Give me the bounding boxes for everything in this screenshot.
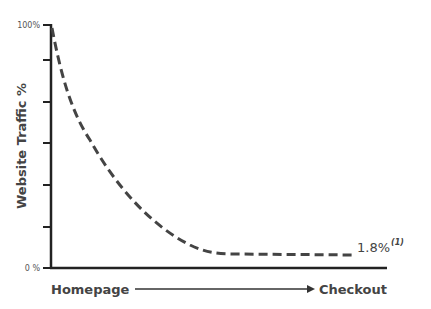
y-axis-label: Website Traffic % [14,83,29,209]
end-value-label: 1.8% [357,240,390,255]
end-footnote: (1) [391,238,404,247]
traffic-curve [52,28,356,255]
y-tick-top: 100% [17,21,40,30]
arrow-right-icon [307,285,315,293]
y-tick-bottom: 0 % [25,264,41,273]
x-start-label: Homepage [51,282,130,297]
chart: 100% 0 % Website Traffic % 1.8% (1) Home… [0,0,431,309]
x-end-label: Checkout [319,282,387,297]
